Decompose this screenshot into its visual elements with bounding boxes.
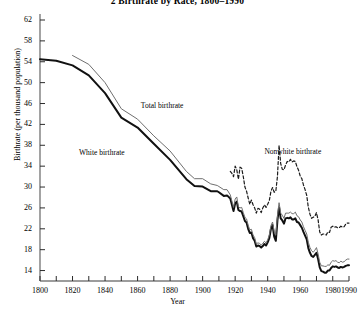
series-line-total-birthrate: [73, 56, 349, 267]
axis-lines: [40, 14, 349, 281]
data-series-group: [40, 56, 349, 273]
series-line-white-birthrate: [40, 59, 349, 273]
series-line-nonwhite-birthrate: [230, 145, 349, 235]
